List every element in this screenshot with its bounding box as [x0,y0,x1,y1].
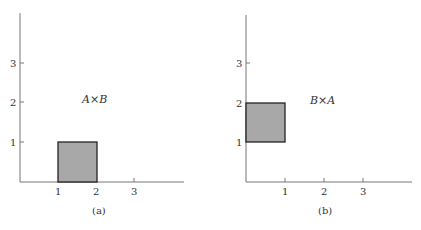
x-tick-1: 1 [55,186,61,197]
caption: (a) [92,205,106,216]
y-tick-3: 3 [10,58,16,69]
product-set-rectangle [58,142,97,182]
x-tick-2: 2 [93,186,99,197]
x-tick-3: 3 [360,186,366,197]
y-tick-1: 1 [10,137,16,148]
y-tick-2: 2 [236,98,242,109]
x-tick-3: 3 [131,186,137,197]
product-label: A×B [81,93,107,106]
caption: (b) [318,205,332,216]
product-set-rectangle [246,103,285,142]
y-tick-2: 2 [10,97,16,108]
y-tick-1: 1 [236,137,242,148]
x-tick-1: 1 [282,186,288,197]
panel-b: 3 2 1 1 2 3 B×A (b) [236,15,412,216]
product-label: B×A [309,94,335,107]
panel-a: 3 2 1 1 2 3 A×B (a) [10,13,184,216]
figure: 3 2 1 1 2 3 A×B (a) 3 2 1 1 2 3 B×A (b) [0,0,421,230]
y-tick-3: 3 [236,58,242,69]
x-tick-2: 2 [321,186,327,197]
